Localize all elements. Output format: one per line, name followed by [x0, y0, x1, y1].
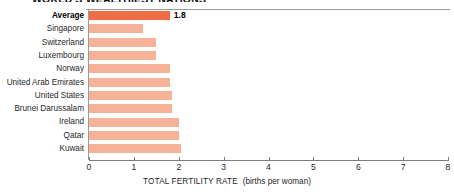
bar[interactable]: [89, 144, 181, 153]
category-label: Norway: [0, 62, 84, 75]
bar[interactable]: [89, 51, 156, 60]
axis-tick-label: 4: [257, 162, 281, 172]
bar[interactable]: [89, 104, 172, 113]
bar-row[interactable]: Norway: [0, 62, 454, 75]
axis-tick: [179, 157, 180, 161]
bar-row[interactable]: Luxembourg: [0, 49, 454, 62]
axis-tick: [269, 157, 270, 161]
category-label: Switzerland: [0, 36, 84, 49]
axis-title-main: TOTAL FERTILITY RATE: [143, 177, 238, 186]
bar-row[interactable]: United States: [0, 89, 454, 102]
axis-title: TOTAL FERTILITY RATE (births per woman): [0, 177, 454, 186]
bar-row[interactable]: Qatar: [0, 129, 454, 142]
value-axis: 0 1 2 3 4 5 6 7 8 TOTAL FERTILITY RATE (…: [0, 160, 454, 192]
bar[interactable]: [89, 24, 143, 33]
chart-title: WORLD'S WEALTHIEST NATIONS: [32, 0, 206, 2]
axis-tick-label: 0: [77, 162, 101, 172]
bar-row[interactable]: Kuwait: [0, 142, 454, 155]
axis-tick-label: 5: [301, 162, 325, 172]
bar-row[interactable]: Brunei Darussalam: [0, 102, 454, 115]
axis-tick: [89, 157, 90, 161]
axis-tick: [313, 157, 314, 161]
axis-tick-label: 1: [122, 162, 146, 172]
category-label: United Arab Emirates: [0, 76, 84, 89]
plot-area: Average 1.8 Singapore Switzerland Luxemb…: [0, 9, 454, 161]
category-label: United States: [0, 89, 84, 102]
bar-row[interactable]: Switzerland: [0, 36, 454, 49]
axis-tick: [448, 157, 449, 161]
bar-row[interactable]: Average 1.8: [0, 9, 454, 22]
axis-tick-label: 3: [212, 162, 236, 172]
category-label: Singapore: [0, 22, 84, 35]
category-label: Luxembourg: [0, 49, 84, 62]
axis-tick-label: 2: [167, 162, 191, 172]
axis-tick-label: 8: [436, 162, 454, 172]
bar[interactable]: [89, 91, 172, 100]
bar-row[interactable]: Singapore: [0, 22, 454, 35]
bar[interactable]: [89, 64, 170, 73]
category-label: Ireland: [0, 115, 84, 128]
bar[interactable]: [89, 38, 156, 47]
category-label: Average: [0, 9, 84, 22]
bar-value-label: 1.8: [174, 9, 186, 22]
axis-tick-label: 7: [391, 162, 415, 172]
bar-row[interactable]: Ireland: [0, 115, 454, 128]
bar[interactable]: [89, 78, 170, 87]
axis-tick-label: 6: [346, 162, 370, 172]
bar-row[interactable]: United Arab Emirates: [0, 76, 454, 89]
chart-figure: WORLD'S WEALTHIEST NATIONS Average 1.8 S…: [0, 0, 454, 192]
axis-tick: [358, 157, 359, 161]
bar[interactable]: [89, 131, 179, 140]
axis-tick: [403, 157, 404, 161]
axis-tick: [224, 157, 225, 161]
bar[interactable]: [89, 11, 170, 20]
axis-tick: [134, 157, 135, 161]
category-label: Brunei Darussalam: [0, 102, 84, 115]
bar[interactable]: [89, 118, 179, 127]
category-label: Kuwait: [0, 142, 84, 155]
axis-title-units: (births per woman): [243, 177, 311, 186]
category-label: Qatar: [0, 129, 84, 142]
